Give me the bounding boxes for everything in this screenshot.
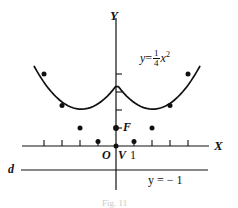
parabola-figure [0,0,238,208]
focus-label: F [123,121,131,133]
curve-equation-exponent: 2 [166,50,170,59]
curve-equation-fraction: 14 [153,49,160,68]
curve-equation: y=14x2 [140,50,170,69]
figure-caption: Fig. 11 [102,198,127,208]
origin-label: O [102,149,111,161]
vertex-label: V [118,149,126,161]
y-axis-label: Y [110,9,118,22]
fraction-denominator: 4 [153,58,160,68]
directrix-label: d [8,163,14,175]
directrix-equation: y = − 1 [148,174,183,186]
y-axis-ticks [116,74,122,128]
fraction-numerator: 1 [153,49,160,58]
parabola-curve [34,67,200,110]
focus-point [113,125,119,131]
x-axis-label: X [214,139,223,152]
x-unit-label: 1 [130,149,136,161]
curve-equation-equals: = [145,51,152,65]
